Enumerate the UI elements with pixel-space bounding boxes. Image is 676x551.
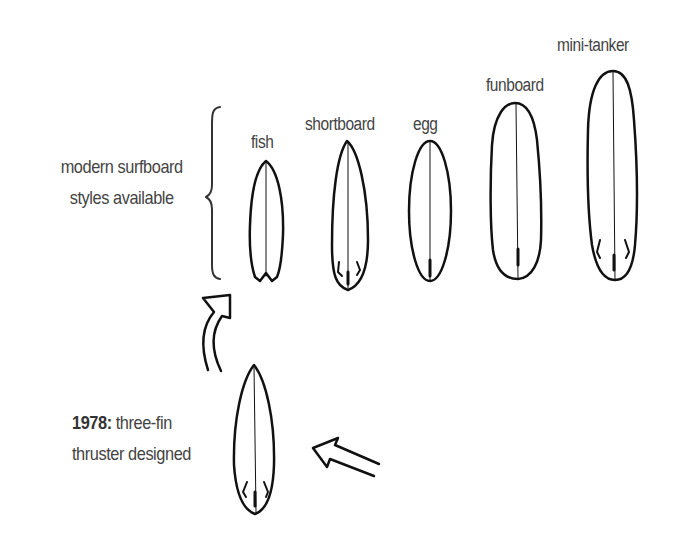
surfboard-funboard-icon	[491, 103, 542, 279]
surfboard-mini-tanker-icon	[588, 71, 637, 280]
diagonal-arrow-icon	[313, 438, 379, 476]
surfboard-fish-icon	[250, 161, 283, 281]
curly-brace	[206, 107, 220, 279]
surfboard-egg-icon	[409, 141, 451, 281]
surfboard-shortboard-icon	[332, 141, 368, 290]
surfboard-thruster-icon	[234, 365, 274, 514]
curved-arrow-up-icon	[203, 295, 230, 371]
